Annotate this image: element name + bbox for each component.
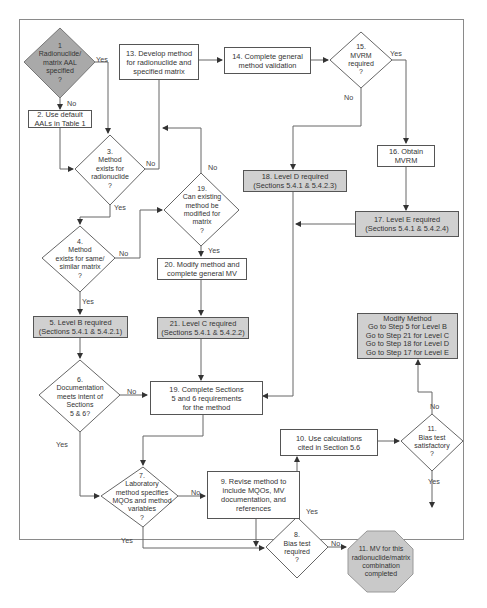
label-11-no: No: [430, 403, 439, 411]
text-line: required: [284, 548, 310, 556]
text-line: for the method: [183, 403, 231, 412]
text-line: 10. Use calculations: [296, 434, 362, 443]
text-line: Method: [68, 246, 91, 254]
text-line: radionuclide/matrix: [352, 554, 411, 562]
text-line: specified: [46, 67, 74, 75]
text-line: satisfactory: [414, 442, 449, 450]
text-line: 14. Complete general: [232, 52, 303, 61]
label-15-no: No: [344, 94, 353, 102]
text-line: 18. Level D required: [262, 172, 329, 181]
text-line: for radionuclide and: [127, 58, 192, 67]
text-line: include MQOs, MV: [222, 486, 284, 495]
text-line: 5. Level B required: [49, 318, 111, 327]
decision-19-text: 19. Can existing method be modified for …: [167, 184, 237, 236]
decision-1-text: 1 Radionuclide/ matrix AAL specified ?: [26, 38, 94, 88]
text-line: MVRM: [350, 52, 371, 60]
text-line: method be: [185, 202, 218, 210]
label-8-yes: Yes: [306, 508, 318, 516]
text-line: 16. Obtain: [389, 147, 423, 156]
text-line: ?: [359, 68, 363, 76]
text-line: (Sections 5.4.1 & 5.4.2.3): [253, 181, 336, 190]
text-line: required: [348, 60, 374, 68]
text-line: Sections: [67, 401, 94, 409]
label-4-yes: Yes: [82, 298, 94, 306]
label-3-no: No: [146, 160, 155, 168]
label-7-yes: Yes: [121, 537, 133, 545]
step-10-box: 10. Use calculations cited in Section 5.…: [280, 429, 378, 456]
text-line: (Sections 5.4.1 & 5.4.2.4): [365, 224, 448, 233]
text-line: matrix: [192, 218, 211, 226]
text-line: Method: [98, 156, 121, 164]
step-14-box: 14. Complete general method validation: [224, 47, 311, 74]
text-line: radionuclide: [91, 173, 129, 181]
text-line: complete general MV: [167, 269, 237, 278]
text-line: 7.: [139, 472, 145, 480]
label-4-no: No: [119, 250, 128, 258]
text-line: completed: [365, 570, 397, 578]
text-line: Documentation: [56, 384, 103, 392]
text-line: (Sections 5.4.1 & 5.4.2.2): [161, 328, 244, 337]
text-line: ?: [430, 450, 434, 458]
label-15-yes: Yes: [390, 50, 402, 58]
modify-method-box: Modify Method Go to Step 5 for Level B G…: [357, 313, 458, 359]
text-line: 8.: [294, 531, 300, 539]
text-line: 6.: [77, 376, 83, 384]
label-6-yes: Yes: [56, 441, 68, 449]
text-line: 5 & 6?: [70, 410, 90, 418]
text-line: AALs in Table 1: [34, 119, 85, 128]
step-19-complete-box: 19. Complete Sections 5 and 6 requiremen…: [150, 381, 263, 415]
label-1-yes: Yes: [96, 56, 108, 64]
text-line: MQOs and method: [112, 497, 171, 505]
text-line: ?: [295, 556, 299, 564]
text-line: ?: [108, 182, 112, 190]
decision-11-text: 11. Bias test satisfactory ?: [404, 424, 460, 460]
text-line: (Sections 5.4.1 & 5.4.2.1): [39, 327, 122, 336]
text-line: Bias test: [419, 434, 446, 442]
label-8-no: No: [331, 540, 340, 548]
label-7-no: No: [191, 489, 200, 497]
text-line: Go to Step 17 for Level E: [366, 349, 449, 358]
text-line: 5 and 6 requirements: [172, 394, 242, 403]
step-21-box: 21. Level C required (Sections 5.4.1 & 5…: [157, 317, 249, 339]
decision-8-text: 8. Bias test required ?: [270, 530, 324, 566]
step-9-box: 9. Revise method to include MQOs, MV doc…: [207, 471, 300, 519]
decision-4-text: 4. Method exists for same/ similar matri…: [46, 236, 114, 282]
step-16-box: 16. Obtain MVRM: [377, 145, 435, 167]
text-line: method validation: [239, 61, 297, 70]
step-5-box: 5. Level B required (Sections 5.4.1 & 5.…: [33, 316, 128, 338]
label-1-no: No: [67, 100, 76, 108]
text-line: specified matrix: [133, 67, 184, 76]
text-line: references: [236, 504, 271, 513]
text-line: exists for: [96, 165, 124, 173]
text-line: variables: [128, 505, 156, 513]
label-6-no: No: [127, 388, 136, 396]
text-line: 19.: [197, 185, 207, 193]
text-line: 11.: [427, 425, 436, 433]
text-line: combination: [362, 562, 400, 570]
text-line: cited in Section 5.6: [298, 443, 360, 452]
step-20-box: 20. Modify method and complete general M…: [157, 258, 247, 280]
text-line: 21. Level C required: [170, 319, 237, 328]
label-19-yes: Yes: [208, 247, 220, 255]
decision-3-text: 3. Method exists for radionuclide ?: [78, 146, 142, 192]
text-line: 9. Revise method to: [221, 477, 287, 486]
text-line: Can existing: [183, 193, 222, 201]
text-line: 3.: [107, 148, 113, 156]
text-line: Radionuclide/: [39, 50, 81, 58]
text-line: 19. Complete Sections: [169, 385, 243, 394]
text-line: ?: [200, 227, 204, 235]
text-line: 17. Level E required: [374, 215, 440, 224]
terminal-11-text: 11. MV for this radionuclide/matrix comb…: [349, 540, 413, 584]
text-line: Bias test: [284, 540, 311, 548]
text-line: ?: [140, 514, 144, 522]
label-11-yes: Yes: [428, 478, 440, 486]
text-line: 1: [58, 42, 62, 50]
text-line: 20. Modify method and: [164, 260, 239, 269]
decision-7-text: 7. Laboratory method specifies MQOs and …: [102, 472, 182, 522]
text-line: 4.: [77, 238, 83, 246]
text-line: meets intent of: [57, 393, 103, 401]
text-line: 2. Use default: [37, 110, 83, 119]
label-3-yes: Yes: [114, 204, 126, 212]
step-13-box: 13. Develop method for radionuclide and …: [119, 44, 199, 80]
text-line: 11. MV for this: [359, 545, 404, 553]
